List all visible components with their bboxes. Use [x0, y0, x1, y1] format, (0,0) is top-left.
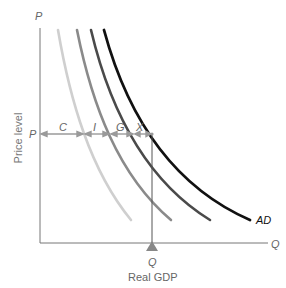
segment-i-label: I: [93, 121, 96, 133]
y-axis-title: Price level: [12, 108, 24, 168]
x-axis-title: Real GDP: [128, 271, 178, 283]
quantity-marker-label: Q: [148, 256, 157, 268]
price-marker-label: P: [29, 128, 36, 140]
y-axis-end-label: P: [35, 10, 42, 22]
x-axis-end-label: Q: [271, 238, 280, 250]
equilibrium-point: [150, 132, 153, 135]
ad-curve-label: AD: [256, 214, 271, 226]
segment-g-label: G: [116, 121, 125, 133]
curve-c-plus-i-plus-g: [91, 30, 210, 220]
segment-c-label: C: [59, 121, 67, 133]
segment-x-label: X: [136, 121, 143, 133]
aggregate-demand-diagram: [0, 0, 286, 288]
